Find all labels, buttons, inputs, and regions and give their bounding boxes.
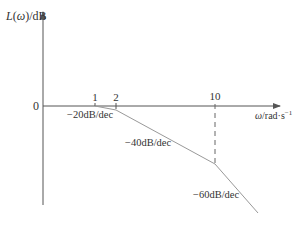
slope-label-20: −20dB/dec xyxy=(67,109,114,120)
breakpoint-label-2: 2 xyxy=(113,91,119,103)
y-axis-label: L(ω)/dB xyxy=(5,9,47,23)
breakpoint-label-10: 10 xyxy=(210,90,222,102)
origin-label: 0 xyxy=(33,99,39,113)
breakpoint-label-1: 1 xyxy=(92,91,98,103)
bode-diagram: L(ω)/dB 0 1 2 10 ω/rad·s−1 −20dB/dec −40… xyxy=(0,0,308,226)
slope-label-40: −40dB/dec xyxy=(125,137,172,148)
x-axis-label: ω/rad·s−1 xyxy=(255,109,293,121)
slope-label-60: −60dB/dec xyxy=(193,189,240,200)
